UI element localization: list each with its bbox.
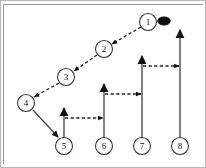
dashed-route-node-3-to-node-4 xyxy=(34,83,59,97)
ball-group xyxy=(158,17,171,25)
dashed-route-node-2-to-node-3 xyxy=(74,55,97,71)
player-node-label-7: 7 xyxy=(140,141,145,151)
player-node-4[interactable]: 4 xyxy=(18,95,35,112)
ball-icon xyxy=(158,17,171,25)
player-nodes-group: 12345678 xyxy=(18,14,189,155)
player-node-label-5: 5 xyxy=(62,141,67,151)
player-node-3[interactable]: 3 xyxy=(58,69,75,86)
player-node-5[interactable]: 5 xyxy=(56,138,73,155)
player-node-label-3: 3 xyxy=(64,72,69,82)
diagram-canvas: 12345678 xyxy=(0,0,206,168)
player-node-label-6: 6 xyxy=(102,141,107,151)
player-node-label-1: 1 xyxy=(146,17,151,27)
player-node-label-4: 4 xyxy=(24,98,29,108)
play-diagram-frame: 12345678 xyxy=(0,0,206,168)
vertical-routes-group xyxy=(64,30,180,137)
player-node-1[interactable]: 1 xyxy=(140,14,157,31)
player-node-label-2: 2 xyxy=(102,44,107,54)
player-node-label-8: 8 xyxy=(178,141,183,151)
player-node-7[interactable]: 7 xyxy=(134,138,151,155)
solid-routes-group xyxy=(33,110,58,137)
solid-route-node-4-to-node-5 xyxy=(33,110,58,137)
player-node-8[interactable]: 8 xyxy=(172,138,189,155)
player-node-2[interactable]: 2 xyxy=(96,41,113,58)
player-node-6[interactable]: 6 xyxy=(96,138,113,155)
dashed-route-node-1-to-node-2 xyxy=(112,27,141,44)
